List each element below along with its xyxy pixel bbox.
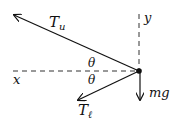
lower-tension-label: Tℓ — [78, 101, 92, 120]
x-axis-label: x — [13, 72, 21, 87]
upper-tension-label: Tu — [49, 13, 65, 32]
mass-point — [136, 68, 142, 74]
weight-label: mg — [149, 85, 170, 100]
upper-tension-arrow — [14, 15, 139, 71]
angle-lower-label: θ — [88, 73, 96, 87]
angle-upper-label: θ — [88, 56, 96, 70]
free-body-diagram: Tu Tℓ mg x y θ θ — [0, 0, 181, 131]
y-axis-label: y — [143, 10, 152, 25]
